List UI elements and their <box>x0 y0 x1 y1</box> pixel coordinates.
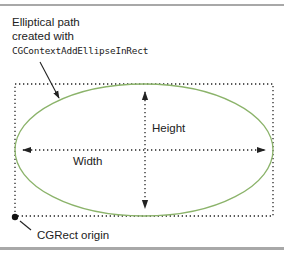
callout-pointer-arrow <box>40 62 59 98</box>
width-label: Width <box>73 155 102 168</box>
origin-dot <box>12 214 18 220</box>
origin-label: CGRect origin <box>37 229 109 242</box>
bottom-rule <box>0 247 284 250</box>
ellipse-diagram <box>0 0 284 254</box>
origin-leader-line <box>20 221 31 230</box>
height-label: Height <box>152 122 185 135</box>
